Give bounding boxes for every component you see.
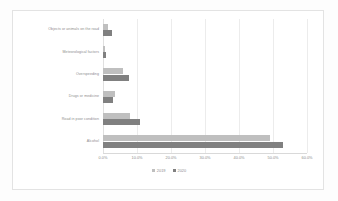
x-tick-label: 20.0% xyxy=(165,156,176,160)
bar-group xyxy=(103,19,307,41)
category-label: Meteorological factors xyxy=(0,51,99,55)
legend-item[interactable]: 2019 xyxy=(152,169,166,173)
category-label-row: Objects or animals on the road xyxy=(0,19,99,41)
category-label: Alcohol xyxy=(0,140,99,144)
bar xyxy=(103,135,270,141)
bar xyxy=(103,68,123,74)
chart-figure: Objects or animals on the roadMeteorolog… xyxy=(0,0,338,201)
bar xyxy=(103,75,129,81)
bar xyxy=(103,142,283,148)
x-tick-label: 10.0% xyxy=(131,156,142,160)
category-label: Overspeeding xyxy=(0,73,99,77)
bar xyxy=(103,91,115,97)
category-label-row: Alcohol xyxy=(0,131,99,153)
category-label-row: Meteorological factors xyxy=(0,41,99,63)
legend-label: 2019 xyxy=(157,169,166,173)
x-tick-label: 0.0% xyxy=(99,156,108,160)
category-label: Road in poor condition xyxy=(0,118,99,122)
bar xyxy=(103,46,105,52)
bar-group xyxy=(103,131,307,153)
legend-item[interactable]: 2020 xyxy=(173,169,187,173)
chart-legend: 20192020 xyxy=(13,169,325,173)
gridline xyxy=(307,19,308,153)
category-label: Objects or animals on the road xyxy=(0,28,99,32)
category-label-row: Road in poor condition xyxy=(0,108,99,130)
bar xyxy=(103,24,108,30)
plot-area: Objects or animals on the roadMeteorolog… xyxy=(103,19,307,153)
category-label: Drugs or medicine xyxy=(0,95,99,99)
bar-group xyxy=(103,64,307,86)
bar xyxy=(103,52,106,58)
category-axis-labels: Objects or animals on the roadMeteorolog… xyxy=(0,19,99,153)
legend-swatch xyxy=(173,169,176,172)
bar-group xyxy=(103,41,307,63)
category-label-row: Overspeeding xyxy=(0,64,99,86)
legend-label: 2020 xyxy=(178,169,187,173)
x-tick-label: 60.0% xyxy=(301,156,312,160)
x-tick-label: 40.0% xyxy=(233,156,244,160)
bar xyxy=(103,119,140,125)
bar xyxy=(103,113,130,119)
legend-swatch xyxy=(152,169,155,172)
bar-group xyxy=(103,108,307,130)
x-tick-label: 30.0% xyxy=(199,156,210,160)
x-axis-tick-labels: 0.0%10.0%20.0%30.0%40.0%50.0%60.0% xyxy=(103,156,307,166)
bar xyxy=(103,97,113,103)
bar xyxy=(103,30,112,36)
chart-panel: Objects or animals on the roadMeteorolog… xyxy=(12,10,324,190)
x-tick-label: 50.0% xyxy=(267,156,278,160)
bar-group xyxy=(103,86,307,108)
category-label-row: Drugs or medicine xyxy=(0,86,99,108)
x-axis-line xyxy=(103,153,307,154)
